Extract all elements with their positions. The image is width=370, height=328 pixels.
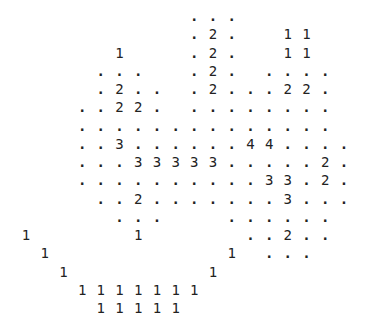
grid-number: 3 [185, 153, 203, 171]
grid-dot: . [167, 190, 185, 208]
grid-number: 3 [148, 153, 166, 171]
grid-dot: . [298, 244, 316, 262]
grid-dot: . [185, 98, 203, 116]
grid-dot: . [260, 62, 278, 80]
grid-dot: . [241, 117, 259, 135]
grid-dot: . [260, 117, 278, 135]
grid-dot: . [148, 80, 166, 98]
grid-number: 4 [260, 135, 278, 153]
grid-number: 1 [54, 263, 72, 281]
grid-dot: . [241, 80, 259, 98]
grid-dot: . [73, 98, 91, 116]
grid-number: 3 [279, 171, 297, 189]
grid-number: 2 [316, 153, 334, 171]
grid-dot: . [298, 98, 316, 116]
grid-dot: . [185, 135, 203, 153]
grid-dot: . [316, 117, 334, 135]
grid-dot: . [298, 117, 316, 135]
grid-dot: . [73, 153, 91, 171]
grid-dot: . [279, 153, 297, 171]
grid-dot: . [92, 153, 110, 171]
grid-dot: . [148, 171, 166, 189]
grid-dot: . [298, 135, 316, 153]
grid-dot: . [298, 226, 316, 244]
grid-dot: . [223, 44, 241, 62]
grid-dot: . [223, 153, 241, 171]
grid-dot: . [241, 208, 259, 226]
grid-number: 1 [73, 281, 91, 299]
grid-dot: . [223, 190, 241, 208]
grid-dot: . [148, 135, 166, 153]
grid-dot: . [185, 117, 203, 135]
grid-number: 4 [241, 135, 259, 153]
grid-number: 1 [279, 44, 297, 62]
grid-dot: . [298, 208, 316, 226]
grid-dot: . [279, 62, 297, 80]
grid-number: 1 [167, 299, 185, 317]
grid-dot: . [129, 208, 147, 226]
number-grid: ....2.111.2.11....2......2...2...22...22… [0, 0, 370, 328]
grid-number: 3 [167, 153, 185, 171]
grid-dot: . [148, 190, 166, 208]
grid-dot: . [73, 117, 91, 135]
grid-number: 1 [111, 44, 129, 62]
grid-dot: . [129, 80, 147, 98]
grid-dot: . [279, 244, 297, 262]
grid-dot: . [167, 135, 185, 153]
grid-dot: . [298, 62, 316, 80]
grid-number: 1 [129, 281, 147, 299]
grid-dot: . [185, 25, 203, 43]
grid-dot: . [241, 98, 259, 116]
grid-dot: . [185, 171, 203, 189]
grid-dot: . [316, 208, 334, 226]
grid-number: 1 [298, 25, 316, 43]
grid-dot: . [279, 208, 297, 226]
grid-dot: . [316, 226, 334, 244]
grid-dot: . [148, 208, 166, 226]
grid-dot: . [185, 190, 203, 208]
grid-dot: . [223, 171, 241, 189]
grid-dot: . [185, 62, 203, 80]
grid-dot: . [316, 135, 334, 153]
grid-dot: . [223, 25, 241, 43]
grid-number: 1 [129, 299, 147, 317]
grid-number: 3 [260, 171, 278, 189]
grid-dot: . [316, 98, 334, 116]
grid-number: 2 [204, 62, 222, 80]
grid-dot: . [111, 208, 129, 226]
grid-dot: . [111, 62, 129, 80]
grid-number: 3 [111, 135, 129, 153]
grid-number: 1 [148, 299, 166, 317]
grid-dot: . [335, 171, 353, 189]
grid-dot: . [241, 171, 259, 189]
grid-number: 1 [298, 44, 316, 62]
grid-dot: . [204, 7, 222, 25]
grid-dot: . [260, 226, 278, 244]
grid-dot: . [204, 117, 222, 135]
grid-number: 1 [36, 244, 54, 262]
grid-dot: . [316, 80, 334, 98]
grid-dot: . [204, 190, 222, 208]
grid-dot: . [335, 135, 353, 153]
grid-dot: . [92, 62, 110, 80]
grid-dot: . [223, 135, 241, 153]
grid-number: 1 [129, 226, 147, 244]
grid-dot: . [111, 117, 129, 135]
grid-dot: . [148, 98, 166, 116]
grid-dot: . [73, 135, 91, 153]
grid-dot: . [92, 171, 110, 189]
grid-dot: . [223, 80, 241, 98]
grid-number: 1 [111, 281, 129, 299]
grid-dot: . [241, 153, 259, 171]
grid-dot: . [204, 135, 222, 153]
grid-number: 1 [167, 281, 185, 299]
grid-number: 1 [204, 263, 222, 281]
grid-dot: . [316, 62, 334, 80]
grid-number: 2 [111, 80, 129, 98]
grid-number: 1 [17, 226, 35, 244]
grid-number: 3 [204, 153, 222, 171]
grid-number: 2 [279, 226, 297, 244]
grid-dot: . [260, 153, 278, 171]
grid-number: 1 [92, 299, 110, 317]
grid-dot: . [298, 171, 316, 189]
